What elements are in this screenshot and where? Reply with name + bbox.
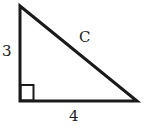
vertical-leg-label: 3 [2, 42, 12, 60]
right-triangle-diagram: 3 C 4 [0, 0, 144, 127]
horizontal-leg-label: 4 [69, 107, 79, 125]
right-angle-marker [21, 85, 34, 101]
hypotenuse-label: C [79, 28, 90, 46]
triangle-outline [20, 6, 137, 101]
